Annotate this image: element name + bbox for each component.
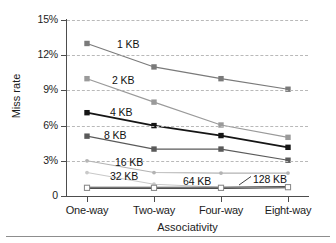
y-tick-mark <box>61 126 66 127</box>
series-label-128-kb: 128 KB <box>253 173 287 185</box>
y-tick-mark <box>61 55 66 56</box>
x-tick-mark <box>154 197 155 202</box>
y-tick-mark <box>61 196 66 197</box>
gridline <box>67 20 308 21</box>
x-tick-mark <box>87 197 88 202</box>
y-tick-label: 12% <box>24 48 58 60</box>
series-label-2-kb: 2 KB <box>112 74 134 86</box>
y-axis-title: Miss rate <box>10 56 22 136</box>
x-axis-line <box>66 196 309 197</box>
y-tick-label: 3% <box>24 154 58 166</box>
x-axis-title: Associativity <box>67 221 308 233</box>
gridline <box>67 126 308 127</box>
gridline <box>67 55 308 56</box>
plot-area <box>67 20 308 196</box>
series-label-1-kb: 1 KB <box>117 38 139 50</box>
x-tick-mark <box>221 197 222 202</box>
series-label-16-kb: 16 KB <box>115 156 143 168</box>
series-label-8-kb: 8 KB <box>104 129 126 141</box>
series-lines <box>67 20 308 196</box>
y-tick-mark <box>61 90 66 91</box>
x-tick-mark <box>288 197 289 202</box>
series-label-4-kb: 4 KB <box>110 106 132 118</box>
series-label-64-kb: 64 KB <box>183 175 211 187</box>
x-tick-label: Eight-way <box>248 204 328 216</box>
series-label-32-kb: 32 KB <box>110 170 138 182</box>
gridline <box>67 161 308 162</box>
chart-figure: Miss rate 03%6%9%12%15% One-wayTwo-wayFo… <box>0 0 336 243</box>
y-tick-label: 6% <box>24 119 58 131</box>
figure-bottom-rule <box>6 236 330 237</box>
y-tick-label: 9% <box>24 83 58 95</box>
y-tick-label: 0 <box>24 189 58 201</box>
y-tick-mark <box>61 20 66 21</box>
y-tick-label: 15% <box>24 13 58 25</box>
gridline <box>67 90 308 91</box>
y-tick-mark <box>61 161 66 162</box>
